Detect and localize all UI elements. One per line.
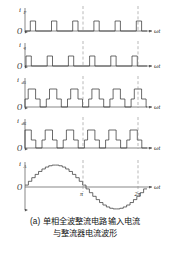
panel-label-i-d5: i [17, 76, 19, 84]
panel-i-q: i q O ωt [17, 41, 161, 71]
origin-i-a: O [17, 184, 23, 192]
x-axis-label-i-p: ωt [154, 27, 161, 34]
panel-i-p: i P O ωt [17, 6, 161, 36]
panel-i-a: i A O ωt π 2π [17, 160, 161, 210]
waveform-i-p [25, 21, 147, 31]
x-axis-label-i-d5: ωt [154, 103, 161, 110]
x-axis-label-i-q: ωt [154, 62, 161, 69]
x-axis-label-i-d6: ωt [154, 144, 161, 151]
caption-line-1: (a) 单相全波整流电路输入电流 [0, 216, 170, 228]
panel-label-i-d6: i [17, 117, 19, 125]
origin-i-q: O [17, 63, 23, 71]
x-axis-label-i-a: ωt [154, 183, 161, 190]
origin-i-d5: O [17, 104, 23, 112]
panel-label-i-q: i [19, 41, 21, 49]
waveform-i-d5 [25, 89, 147, 107]
x-tick-pi: π [80, 191, 84, 197]
panel-sublabel-i-p: P [23, 10, 27, 15]
figure-caption: (a) 单相全波整流电路输入电流 与整流器电流波形 [0, 216, 170, 239]
panel-label-i-p: i [19, 6, 21, 14]
panel-i-d6: i d6 O ωt [17, 117, 161, 153]
caption-line-2: 与整流器电流波形 [0, 228, 170, 240]
origin-i-d6: O [17, 145, 23, 153]
figure-container: i P O ωt i q O ωt i d5 O ωt [0, 0, 170, 256]
waveform-plot: i P O ωt i q O ωt i d5 O ωt [0, 0, 170, 214]
panel-i-d5: i d5 O ωt [17, 76, 161, 112]
panel-sublabel-i-d6: d6 [22, 121, 27, 126]
waveform-i-q [25, 56, 147, 66]
panel-sublabel-i-d5: d5 [22, 80, 27, 85]
waveform-i-d6 [25, 130, 147, 148]
panel-sublabel-i-a: A [23, 164, 27, 169]
origin-i-p: O [17, 28, 23, 36]
panel-label-i-a: i [19, 160, 21, 168]
